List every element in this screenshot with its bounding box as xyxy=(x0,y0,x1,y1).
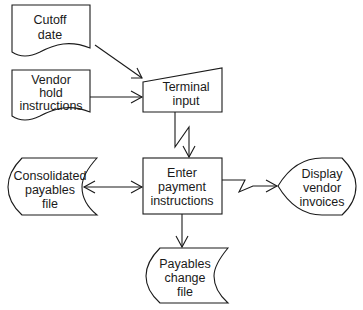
node-vendor-hold-instructions: Vendor hold instructions xyxy=(12,70,90,120)
node-vendor-hold-line-3: instructions xyxy=(19,99,82,113)
flowchart: Cutoff date Vendor hold instructions Ter… xyxy=(0,0,363,310)
node-vendor-hold-line-2: hold xyxy=(39,86,63,100)
edge-terminal-to-enter-payment xyxy=(175,112,195,157)
node-cutoff-date: Cutoff date xyxy=(12,5,90,56)
node-terminal-input-line-2: input xyxy=(172,94,200,108)
node-terminal-input: Terminal input xyxy=(143,68,222,112)
node-cutoff-date-line-2: date xyxy=(38,28,62,42)
node-display-vendor-invoices: Display vendor invoices xyxy=(278,158,356,215)
node-enter-payment-line-1: Enter xyxy=(167,166,197,180)
edge-enter-payment-to-change-file xyxy=(176,214,188,247)
node-cutoff-date-line-1: Cutoff xyxy=(33,13,67,27)
node-terminal-input-line-1: Terminal xyxy=(162,80,209,94)
node-payables-change-file: Payables change file xyxy=(146,248,228,303)
node-enter-payment-line-3: instructions xyxy=(150,194,213,208)
node-vendor-hold-line-1: Vendor xyxy=(31,73,71,87)
edge-cutoff-to-terminal xyxy=(95,45,142,78)
node-consolidated-payables-file: Consolidated payables file xyxy=(8,158,97,215)
node-consolidated-line-3: file xyxy=(42,197,58,211)
edge-enter-payment-to-display xyxy=(222,180,277,192)
node-display-line-2: vendor xyxy=(303,181,341,195)
node-display-line-1: Display xyxy=(302,167,344,181)
node-payables-change-line-3: file xyxy=(177,285,193,299)
node-payables-change-line-1: Payables xyxy=(159,257,210,271)
node-enter-payment-instructions: Enter payment instructions xyxy=(143,158,222,214)
node-consolidated-line-2: payables xyxy=(25,183,75,197)
edge-vendor-hold-to-terminal xyxy=(90,91,142,103)
node-consolidated-line-1: Consolidated xyxy=(14,169,87,183)
node-enter-payment-line-2: payment xyxy=(158,180,206,194)
node-payables-change-line-2: change xyxy=(164,271,205,285)
edge-consolidated-to-enter-payment xyxy=(84,181,142,193)
node-display-line-3: invoices xyxy=(299,195,344,209)
